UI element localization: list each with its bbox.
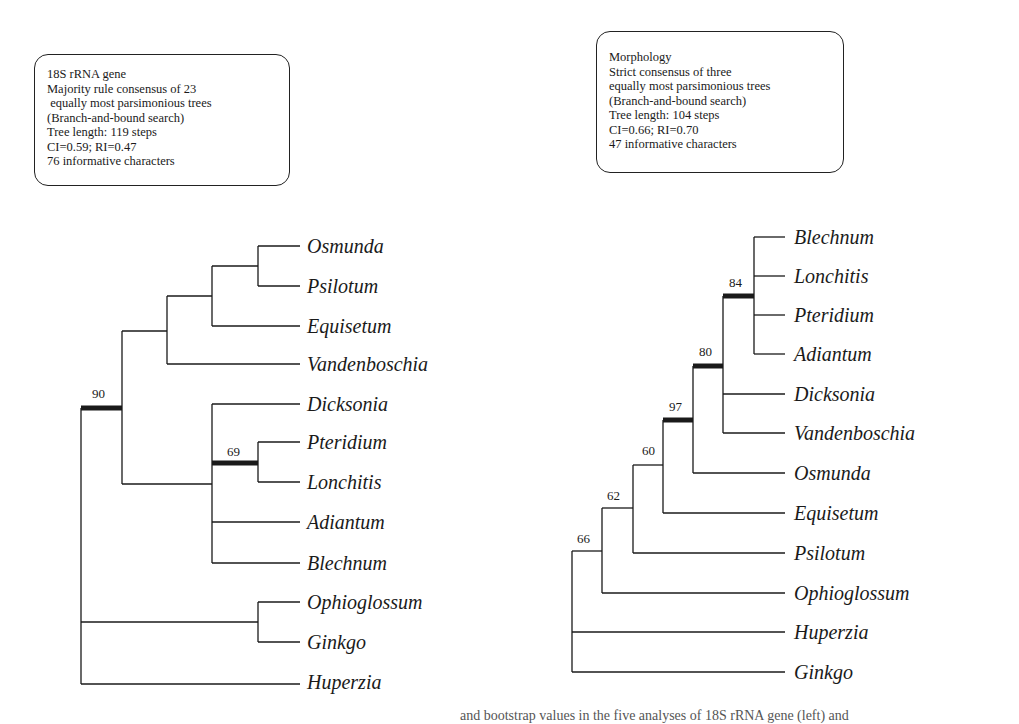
support-value: 62 bbox=[607, 488, 620, 503]
taxon-label: Dicksonia bbox=[306, 393, 388, 415]
support-value: 69 bbox=[227, 444, 240, 459]
support-value: 80 bbox=[699, 344, 712, 359]
support-value: 90 bbox=[92, 386, 105, 401]
taxon-label: Huperzia bbox=[306, 671, 381, 694]
taxon-label: Equisetum bbox=[306, 315, 391, 338]
taxon-label: Blechnum bbox=[794, 226, 874, 248]
taxon-label: Dicksonia bbox=[793, 383, 875, 405]
support-value: 84 bbox=[729, 275, 743, 290]
taxon-label: Pteridium bbox=[306, 431, 387, 453]
taxon-label: Huperzia bbox=[793, 621, 868, 644]
taxon-label: Osmunda bbox=[307, 235, 384, 257]
right-taxa-labels: Blechnum Lonchitis Pteridium Adiantum Di… bbox=[792, 226, 915, 684]
taxon-label: Ginkgo bbox=[307, 631, 366, 654]
taxon-label: Pteridium bbox=[793, 304, 874, 326]
support-value: 97 bbox=[669, 399, 683, 414]
left-taxa-labels: Osmunda Psilotum Equisetum Vandenboschia… bbox=[305, 235, 428, 694]
taxon-label: Blechnum bbox=[307, 552, 387, 574]
taxon-label: Adiantum bbox=[792, 343, 872, 365]
tree-18s-rrna bbox=[81, 246, 300, 684]
taxon-label: Lonchitis bbox=[793, 265, 869, 287]
taxon-label: Lonchitis bbox=[306, 471, 382, 493]
figure-caption: and bootstrap values in the five analyse… bbox=[0, 708, 1019, 724]
taxon-label: Vandenboschia bbox=[794, 422, 915, 444]
taxon-label: Osmunda bbox=[794, 462, 871, 484]
support-value: 66 bbox=[577, 531, 591, 546]
taxon-label: Psilotum bbox=[793, 542, 865, 564]
taxon-label: Vandenboschia bbox=[307, 353, 428, 375]
taxon-label: Psilotum bbox=[306, 275, 378, 297]
taxon-label: Equisetum bbox=[793, 502, 878, 525]
taxon-label: Adiantum bbox=[305, 511, 385, 533]
taxon-label: Ophioglossum bbox=[794, 582, 910, 605]
taxon-label: Ginkgo bbox=[794, 661, 853, 684]
tree-morphology bbox=[572, 237, 785, 672]
support-value: 60 bbox=[642, 443, 655, 458]
taxon-label: Ophioglossum bbox=[307, 591, 423, 614]
